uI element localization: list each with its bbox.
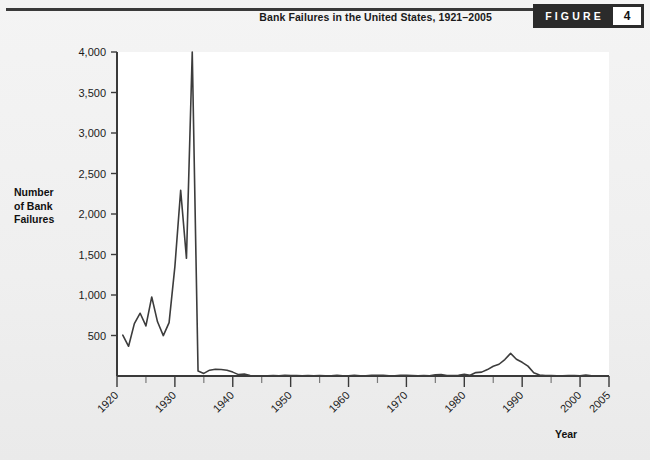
x-axis-tick-label: 1930 xyxy=(152,389,178,415)
y-axis-tick-label: 2,000 xyxy=(78,208,106,220)
x-axis-ticks xyxy=(117,376,609,387)
bank-failures-line-chart: 5001,0001,5002,0002,5003,0003,5004,000 1… xyxy=(0,0,650,460)
x-axis-tick-label: 1920 xyxy=(95,389,121,415)
x-axis-tick-label: 1960 xyxy=(326,389,352,415)
chart-plot-area: 5001,0001,5002,0002,5003,0003,5004,000 1… xyxy=(0,0,650,460)
y-axis-tick-label: 2,500 xyxy=(78,168,106,180)
x-axis-tick-labels: 1920193019401950196019701980199020002005 xyxy=(95,389,613,415)
x-axis-tick-label: 2005 xyxy=(587,389,613,415)
x-axis-tick-label: 2000 xyxy=(558,389,584,415)
x-axis-tick-label: 1950 xyxy=(268,389,294,415)
y-axis-tick-label: 3,500 xyxy=(78,87,106,99)
y-axis-tick-labels: 5001,0001,5002,0002,5003,0003,5004,000 xyxy=(78,46,106,342)
y-axis-tick-label: 1,500 xyxy=(78,249,106,261)
figure-card: Bank Failures in the United States, 1921… xyxy=(0,0,650,460)
y-axis-tick-label: 3,000 xyxy=(78,127,106,139)
x-axis-tick-label: 1990 xyxy=(500,389,526,415)
x-axis-tick-label: 1980 xyxy=(442,389,468,415)
y-axis-tick-label: 4,000 xyxy=(78,46,106,58)
x-axis-tick-label: 1940 xyxy=(210,389,236,415)
y-axis-tick-label: 500 xyxy=(88,330,106,342)
x-axis-tick-label: 1970 xyxy=(384,389,410,415)
y-axis-tick-label: 1,000 xyxy=(78,289,106,301)
